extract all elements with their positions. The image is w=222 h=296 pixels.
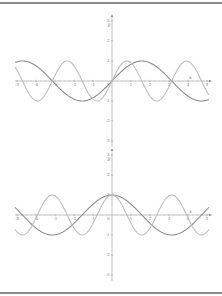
x-tick-label: -2 xyxy=(72,216,76,221)
x-axis-label: x xyxy=(189,208,192,214)
x-tick-label: 5 xyxy=(206,216,209,221)
y-tick-label: -1 xyxy=(106,232,110,237)
page-bottom-border xyxy=(0,292,222,294)
y-tick-label: -3 xyxy=(106,272,110,277)
y-tick-label: 2 xyxy=(107,172,110,177)
x-axis-arrow-icon xyxy=(209,214,212,216)
x-tick-label: 3 xyxy=(168,216,171,221)
x-tick-label: 1 xyxy=(130,216,133,221)
y-axis-arrow-icon xyxy=(111,148,113,151)
axes: -5-4-3-2-112345-3-2-11230xy xyxy=(15,148,212,281)
x-tick-label: -3 xyxy=(53,216,57,221)
y-tick-label: -2 xyxy=(106,252,110,257)
x-tick-label: 2 xyxy=(149,216,152,221)
x-tick-label: -5 xyxy=(15,216,19,221)
plot-cosine: -5-4-3-2-112345-3-2-11230xy xyxy=(0,0,222,296)
y-axis-label: y xyxy=(107,155,111,162)
origin-label: 0 xyxy=(107,216,110,221)
